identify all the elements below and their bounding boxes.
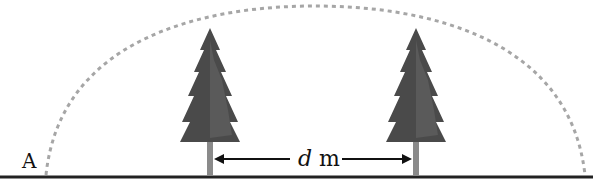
distance-variable: d [298, 146, 312, 171]
left-tree [180, 28, 240, 176]
right-tree [386, 28, 446, 176]
diagram-canvas [0, 0, 593, 184]
point-a-label: A [22, 149, 36, 173]
distance-unit: m [319, 146, 340, 171]
distance-label: d m [298, 146, 340, 171]
